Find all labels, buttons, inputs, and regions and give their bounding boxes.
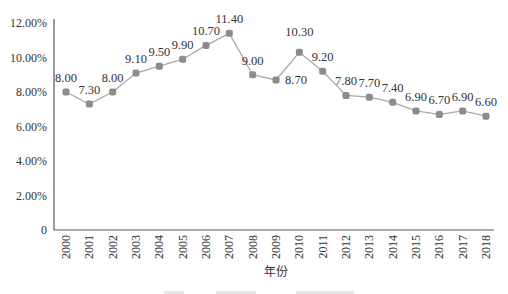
y-tick-label: 2.00% <box>16 189 47 203</box>
data-point <box>483 113 490 120</box>
data-point <box>249 71 256 78</box>
data-label: 6.90 <box>452 90 474 104</box>
data-label: 7.30 <box>78 83 100 97</box>
data-point <box>203 42 210 49</box>
data-label: 7.80 <box>335 74 357 88</box>
x-tick-label: 2015 <box>409 235 423 259</box>
data-label: 7.40 <box>382 81 404 95</box>
data-label: 10.30 <box>285 25 313 39</box>
x-tick-label: 2005 <box>176 235 190 259</box>
x-tick-label: 2012 <box>339 235 353 259</box>
x-tick-label: 2018 <box>479 235 493 259</box>
y-tick-label: 4.00% <box>16 154 47 168</box>
y-tick-label: 0 <box>41 223 47 237</box>
data-point <box>343 92 350 99</box>
x-tick-label: 2007 <box>222 235 236 259</box>
data-point <box>436 111 443 118</box>
data-label: 10.70 <box>192 24 220 38</box>
series-markers <box>63 30 490 120</box>
data-label: 8.00 <box>55 71 77 85</box>
x-tick-label: 2000 <box>59 235 73 259</box>
x-tick-label: 2016 <box>432 235 446 259</box>
x-tick-label: 2008 <box>246 235 260 259</box>
data-point <box>389 99 396 106</box>
data-label: 9.00 <box>242 54 264 68</box>
data-label: 9.20 <box>312 50 334 64</box>
data-point <box>319 68 326 75</box>
data-label: 8.00 <box>102 71 124 85</box>
data-label: 8.70 <box>285 73 307 87</box>
data-label: 7.70 <box>358 76 380 90</box>
x-tick-label: 2010 <box>292 235 306 259</box>
data-label: 9.50 <box>148 45 170 59</box>
data-point <box>86 101 93 108</box>
data-point <box>226 30 233 37</box>
x-axis-ticks: 2000200120022003200420052006200720082009… <box>59 235 493 259</box>
data-point <box>156 63 163 70</box>
x-tick-label: 2013 <box>362 235 376 259</box>
x-tick-label: 2006 <box>199 235 213 259</box>
y-tick-label: 6.00% <box>16 120 47 134</box>
data-point <box>273 76 280 83</box>
x-axis-title: 年份 <box>264 265 288 279</box>
data-labels: 8.007.308.009.109.509.9010.7011.409.008.… <box>55 12 497 109</box>
data-label: 6.90 <box>405 90 427 104</box>
x-tick-label: 2009 <box>269 235 283 259</box>
y-axis-ticks: 02.00%4.00%6.00%8.00%10.00%12.00% <box>10 16 47 237</box>
data-point <box>459 107 466 114</box>
data-label: 11.40 <box>215 12 243 26</box>
data-point <box>179 56 186 63</box>
line-chart: 02.00%4.00%6.00%8.00%10.00%12.00% 200020… <box>0 0 508 294</box>
data-point <box>63 89 70 96</box>
y-tick-label: 12.00% <box>10 16 47 30</box>
y-tick-label: 8.00% <box>16 85 47 99</box>
data-point <box>109 89 116 96</box>
data-point <box>366 94 373 101</box>
data-label: 6.70 <box>428 93 450 107</box>
x-tick-label: 2001 <box>82 235 96 259</box>
x-tick-label: 2002 <box>106 235 120 259</box>
data-point <box>133 70 140 77</box>
y-tick-label: 10.00% <box>10 51 47 65</box>
data-label: 9.10 <box>125 52 147 66</box>
data-point <box>296 49 303 56</box>
x-tick-label: 2011 <box>316 235 330 259</box>
x-tick-label: 2014 <box>386 235 400 259</box>
data-point <box>413 107 420 114</box>
data-label: 9.90 <box>172 38 194 52</box>
data-label: 6.60 <box>475 95 497 109</box>
x-tick-label: 2004 <box>152 235 166 259</box>
x-tick-label: 2017 <box>456 235 470 259</box>
x-tick-label: 2003 <box>129 235 143 259</box>
